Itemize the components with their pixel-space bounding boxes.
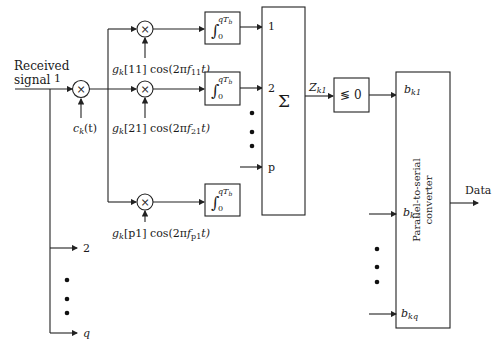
received-label-2: signal xyxy=(14,73,51,87)
decision-input-label: Zk1 xyxy=(308,81,327,95)
ellipsis-dot xyxy=(65,311,70,316)
integrator-2: ∫ 0 qTb xyxy=(205,72,240,105)
sum-input-label-p: p xyxy=(268,161,275,174)
threshold-label: ≶ 0 xyxy=(340,88,361,102)
ellipsis-dot xyxy=(250,111,255,116)
carrier-label-1: gk[11] cos(2πf11t) xyxy=(112,63,210,77)
ellipsis-dot xyxy=(65,297,70,302)
ellipsis-dot xyxy=(65,278,70,283)
integrator-p: ∫ 0 qTb xyxy=(205,184,240,216)
sum-input-label-2: 2 xyxy=(268,82,275,95)
received-label-1: Received xyxy=(14,59,70,73)
data-output-label: Data xyxy=(465,184,492,197)
ellipsis-dot xyxy=(250,144,255,149)
multiply-icon: × xyxy=(140,196,149,209)
multiply-icon: × xyxy=(140,83,149,96)
branch-label-q: q xyxy=(83,327,90,340)
converter-label-line1: Parallel-to-serial xyxy=(411,158,422,241)
sum-input-label-1: 1 xyxy=(268,20,275,33)
carrier-label-p: gk[p1] cos(2πfp1t) xyxy=(112,227,210,241)
carrier-label-2: gk[21] cos(2πf21t) xyxy=(112,122,210,136)
branch-label-2: 2 xyxy=(83,242,90,255)
carrier-branch-p: × gk[p1] cos(2πfp1t) xyxy=(112,194,210,241)
multiply-icon: × xyxy=(140,23,149,36)
multiply-icon: × xyxy=(76,83,85,96)
integral-lower: 0 xyxy=(218,32,223,41)
ellipsis-dot xyxy=(375,265,380,270)
ellipsis-dot xyxy=(250,130,255,135)
receiver-diagram: Received signal 1 2 q × ck(t) × gk[11] c… xyxy=(0,0,498,350)
summer-block xyxy=(262,7,305,215)
branch-label-1: 1 xyxy=(54,72,61,85)
ellipsis-dot xyxy=(375,280,380,285)
spreading-code-label: ck(t) xyxy=(73,122,97,136)
ellipsis-dot xyxy=(375,247,380,252)
sigma-icon: Σ xyxy=(278,91,290,111)
converter-label-line2: converter xyxy=(423,175,434,224)
integrator-1: ∫ 0 qTb xyxy=(205,12,240,44)
integral-lower: 0 xyxy=(218,204,223,213)
integral-lower: 0 xyxy=(218,92,223,101)
